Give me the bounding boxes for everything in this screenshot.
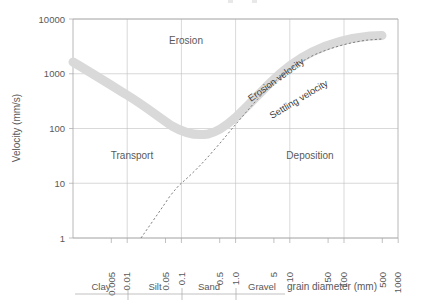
y-axis: 10000 1000 100 10 1 Velocity (mm/s)	[11, 14, 73, 244]
chart-canvas: Erosion Transport Deposition Erosion vel…	[0, 0, 443, 308]
x-axis-title: grain diameter (mm)	[287, 281, 377, 292]
ytick-label-10000: 10000	[39, 14, 65, 25]
hjulstrom-diagram: Erosion Transport Deposition Erosion vel…	[0, 0, 443, 308]
ytick-label-100: 100	[49, 123, 65, 134]
ytick-label-1: 1	[60, 233, 65, 244]
grain-category-scale: Clay Silt Sand Gravel grain diameter (mm…	[75, 281, 377, 300]
top-cropped-artifact	[228, 0, 257, 3]
settling-velocity-curve	[141, 39, 382, 238]
grid-lines	[73, 19, 398, 238]
settling-velocity-path	[141, 39, 382, 238]
xtick-label-0.1: 0.1	[176, 272, 187, 285]
region-label-erosion: Erosion	[169, 35, 203, 46]
grain-category-sand: Sand	[198, 281, 220, 292]
grain-category-clay: Clay	[91, 281, 110, 292]
xtick-label-5: 5	[268, 272, 279, 277]
region-label-transport: Transport	[111, 150, 154, 161]
ytick-label-10: 10	[54, 178, 65, 189]
ytick-label-1000: 1000	[44, 68, 65, 79]
erosion-velocity-curve	[73, 36, 382, 135]
xtick-label-1000: 1000	[392, 272, 403, 293]
y-axis-title: Velocity (mm/s)	[11, 94, 22, 162]
curve-labels: Erosion velocity Settling velocity	[246, 55, 330, 120]
region-label-deposition: Deposition	[286, 150, 333, 161]
grain-category-silt: Silt	[148, 281, 162, 292]
xtick-label-500: 500	[377, 272, 388, 288]
erosion-velocity-band-path	[73, 36, 382, 135]
xtick-label-1.0: 1.0	[230, 272, 241, 285]
grain-category-gravel: Gravel	[248, 281, 276, 292]
xtick-label-0.01: 0.01	[121, 272, 132, 291]
